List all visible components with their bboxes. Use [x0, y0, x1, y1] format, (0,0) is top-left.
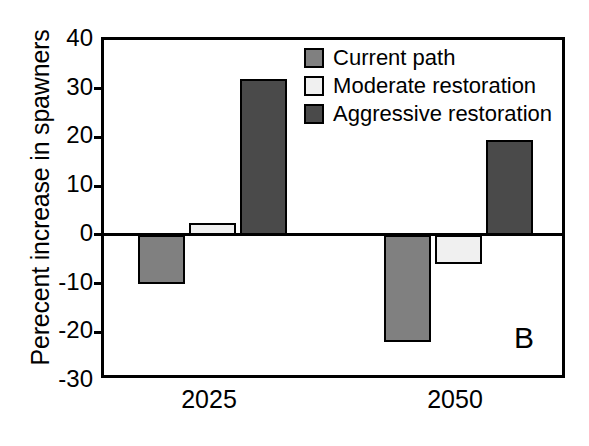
y-tick-label: 0 — [35, 232, 93, 233]
y-axis-tick-labels: 403020100-10-20-30 — [35, 0, 93, 446]
legend-item: Aggressive restoration — [304, 103, 552, 125]
legend-item: Current path — [304, 47, 552, 69]
y-tick-label: -10 — [35, 281, 93, 282]
legend-swatch — [304, 76, 324, 96]
bar — [384, 235, 431, 342]
legend-swatch — [304, 104, 324, 124]
plot-area: Current pathModerate restorationAggressi… — [101, 37, 565, 378]
bar — [138, 235, 185, 284]
bar — [486, 140, 533, 235]
legend-label: Current path — [333, 47, 455, 69]
y-tick-label: 30 — [35, 86, 93, 87]
x-tick-label: 2025 — [181, 385, 237, 414]
legend-label: Aggressive restoration — [333, 103, 552, 125]
x-tick-label: 2050 — [427, 385, 483, 414]
x-axis-tick-labels: 20252050 — [101, 385, 565, 435]
y-tick-mark — [94, 282, 104, 285]
y-tick-label: -30 — [35, 378, 93, 379]
y-tick-label: 10 — [35, 183, 93, 184]
legend-item: Moderate restoration — [304, 75, 552, 97]
y-tick-mark — [94, 233, 104, 236]
y-tick-label: 20 — [35, 134, 93, 135]
bar — [435, 235, 482, 264]
y-tick-label: -20 — [35, 329, 93, 330]
y-tick-mark — [94, 331, 104, 334]
legend-label: Moderate restoration — [333, 75, 536, 97]
y-tick-mark — [94, 136, 104, 139]
bar-chart-figure: Perecent increase in spawners 403020100-… — [0, 0, 589, 446]
bar — [240, 79, 287, 235]
chart-legend: Current pathModerate restorationAggressi… — [304, 47, 552, 131]
panel-letter: B — [514, 321, 534, 355]
y-tick-mark — [94, 87, 104, 90]
legend-swatch — [304, 48, 324, 68]
y-tick-label: 40 — [35, 37, 93, 38]
y-tick-mark — [94, 185, 104, 188]
bar — [189, 223, 236, 235]
